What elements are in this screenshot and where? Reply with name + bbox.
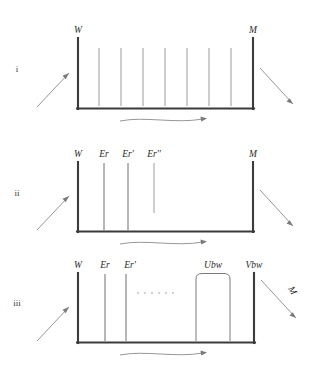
panel-ii: ii W M Er Er' Er''	[14, 149, 293, 244]
panel-iii-right-label: Vbw	[246, 260, 264, 270]
panel-i-right-label: M	[248, 25, 258, 35]
panel-iii-barrier-bump	[196, 274, 230, 342]
panel-i-flow-arrow	[120, 119, 203, 121]
panel-ii-flow-arrow	[120, 242, 203, 244]
panel-i: i W M	[16, 25, 293, 121]
figure-root: i W M	[0, 0, 318, 370]
panel-iii-in-arrow	[37, 307, 69, 341]
panel-ii-inner-label-er: Er	[98, 149, 109, 159]
panel-iii: iii W Er Er' Ubw Vbw	[13, 260, 299, 355]
panel-iii-ellipsis-dots	[137, 292, 174, 294]
panel-ii-inner-label-er-double-prime: Er''	[146, 149, 162, 159]
panel-iii-roman-label: iii	[13, 298, 21, 308]
panel-iii-slant-label-m: M	[286, 284, 300, 298]
panel-iii-out-arrowhead	[290, 312, 297, 318]
panel-iii-bump-label: Ubw	[204, 260, 223, 270]
panel-i-roman-label: i	[16, 64, 19, 74]
panel-ii-flow-arrowhead	[201, 239, 208, 244]
panel-iii-inner-label-er-prime: Er'	[123, 260, 137, 270]
panel-ii-out-arrow	[260, 190, 293, 226]
panel-ii-left-label: W	[74, 149, 83, 159]
panel-iii-inner-label-er: Er	[99, 260, 110, 270]
panel-ii-in-arrow	[37, 196, 69, 230]
panel-i-flow-arrowhead	[201, 116, 208, 121]
panel-i-out-arrow	[260, 68, 293, 104]
panel-iii-out-arrow	[261, 280, 296, 318]
panel-iii-left-label: W	[74, 260, 83, 270]
panel-ii-out-arrowhead	[287, 220, 294, 226]
panel-i-in-arrow	[37, 73, 69, 107]
panel-iii-flow-arrowhead	[201, 350, 208, 355]
panel-ii-inner-label-er-prime: Er'	[121, 149, 135, 159]
panel-ii-roman-label: ii	[14, 188, 20, 198]
three-panel-well-diagram: i W M	[0, 0, 318, 370]
panel-iii-flow-arrow	[120, 353, 203, 355]
panel-ii-right-label: M	[248, 149, 258, 159]
panel-i-left-label: W	[74, 25, 83, 35]
panel-i-out-arrowhead	[287, 98, 294, 104]
